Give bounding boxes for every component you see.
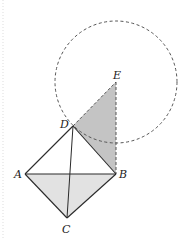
- label-b: B: [118, 168, 127, 181]
- label-c: C: [62, 223, 71, 236]
- label-a: A: [13, 168, 22, 181]
- label-e: E: [112, 69, 121, 82]
- label-d: D: [59, 118, 69, 131]
- segment-ad: [25, 126, 73, 174]
- shaded-triangle-acb: [25, 174, 116, 218]
- shaded-triangle-deb: [73, 82, 116, 174]
- geometry-diagram: E D A B C: [0, 0, 183, 239]
